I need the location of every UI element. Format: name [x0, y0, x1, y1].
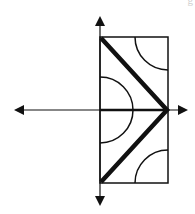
bottom-right-quarter-arc [135, 150, 168, 183]
arrow-left-icon [14, 105, 24, 115]
arrow-right-icon [178, 105, 188, 115]
cropped-caption-fragment: g [188, 0, 194, 6]
geometry-diagram [0, 0, 195, 214]
thick-v-shape [100, 38, 167, 182]
arrow-up-icon [95, 16, 105, 26]
top-right-quarter-arc [135, 37, 168, 70]
arrow-down-icon [95, 196, 105, 206]
